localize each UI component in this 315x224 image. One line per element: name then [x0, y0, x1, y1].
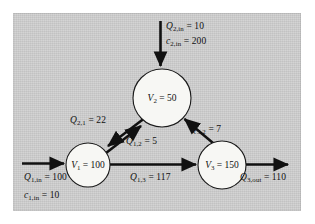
- label-q21-value: = 22: [88, 115, 106, 125]
- node-v2-value: = 50: [159, 93, 176, 103]
- node-v2-sub: 2: [153, 97, 156, 104]
- label-q12-value: = 5: [144, 136, 157, 146]
- label-q32-value: = 7: [208, 124, 221, 134]
- label-q3out: Q3,out = 110: [240, 172, 286, 183]
- node-v3-sub: 3: [211, 164, 214, 171]
- label-c2in-value: = 200: [184, 36, 206, 46]
- node-v1-label: V1 = 100: [71, 160, 105, 170]
- label-q13-var: Q: [130, 172, 137, 182]
- node-v2-var: V: [148, 93, 154, 103]
- label-q3out-var: Q: [240, 172, 247, 182]
- label-q1in-sub: 1,in: [31, 176, 42, 183]
- label-q12-var: Q: [126, 136, 133, 146]
- label-q3out-value: = 110: [264, 172, 286, 182]
- label-q21-var: Q: [70, 115, 77, 125]
- label-q12-sub: 1,2: [133, 140, 142, 147]
- label-c2in: c2,in = 200: [166, 36, 206, 47]
- node-v3-var: V: [205, 160, 211, 170]
- label-q12: Q1,2 = 5: [126, 136, 157, 147]
- label-q2in-sub: 2,in: [173, 25, 184, 32]
- label-q21-sub: 2,1: [77, 119, 86, 126]
- label-q21: Q2,1 = 22: [70, 115, 106, 126]
- node-v1-var: V: [71, 160, 77, 170]
- label-q32-var: Q: [190, 124, 197, 134]
- label-q13-value: = 117: [148, 172, 170, 182]
- label-q2in-value: = 10: [186, 21, 204, 31]
- label-q2in-var: Q: [166, 21, 173, 31]
- label-q1in-value: = 100: [44, 172, 66, 182]
- node-v3-label: V3 = 150: [205, 160, 239, 170]
- figure-canvas: V2 = 50 V1 = 100 V3 = 150 Q2,in = 10 c2,…: [0, 0, 315, 224]
- label-q13-sub: 1,3: [137, 176, 146, 183]
- label-q32-sub: 3,2: [197, 128, 206, 135]
- label-q2in: Q2,in = 10: [166, 21, 204, 32]
- label-c1in: c1,in = 10: [24, 190, 59, 201]
- label-c1in-sub: 1,in: [28, 194, 39, 201]
- node-v3-value: = 150: [217, 160, 239, 170]
- node-v2-label: V2 = 50: [148, 93, 177, 103]
- node-v1-value: = 100: [83, 160, 105, 170]
- label-q3out-sub: 3,out: [247, 176, 261, 183]
- label-c2in-sub: 2,in: [170, 40, 181, 47]
- label-c1in-value: = 10: [42, 190, 60, 200]
- label-q1in-var: Q: [24, 172, 31, 182]
- node-v1-sub: 1: [77, 164, 80, 171]
- label-q1in: Q1,in = 100: [24, 172, 67, 183]
- label-q32: Q3,2 = 7: [190, 124, 221, 135]
- label-q13: Q1,3 = 117: [130, 172, 171, 183]
